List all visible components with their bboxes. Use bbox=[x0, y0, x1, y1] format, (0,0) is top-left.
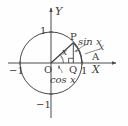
unit-circle-diagram: X Y 1 −1 −1 1 O P Q A sin x cos x x x bbox=[0, 0, 128, 126]
x-tick-label-negative-one: −1 bbox=[9, 66, 24, 76]
y-tick-label-one: 1 bbox=[40, 26, 46, 36]
x-axis-label: X bbox=[92, 64, 100, 75]
y-tick-label-negative-one: −1 bbox=[36, 100, 51, 110]
arc-x-label: x bbox=[99, 43, 104, 52]
right-angle-marker bbox=[69, 58, 74, 63]
x-tick-label-one: 1 bbox=[81, 66, 87, 76]
sin-leader-arrow bbox=[75, 50, 79, 52]
figure-canvas bbox=[0, 0, 128, 126]
angle-arc-tick bbox=[61, 57, 62, 58]
cos-x-label: cos x bbox=[50, 75, 76, 85]
point-label-p: P bbox=[70, 32, 77, 42]
y-axis-label: Y bbox=[55, 6, 62, 17]
angle-x-label: x bbox=[62, 48, 67, 57]
cos-leader-brace bbox=[59, 66, 62, 74]
point-label-a: A bbox=[92, 52, 99, 62]
